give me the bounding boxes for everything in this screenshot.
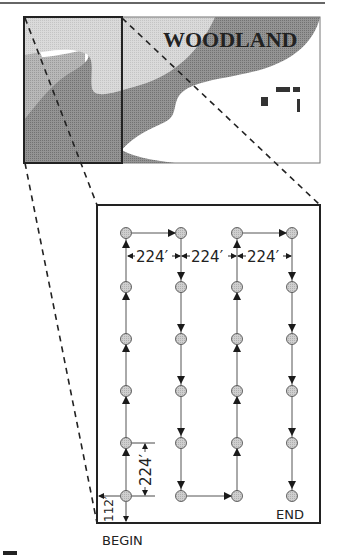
sample-point: [232, 282, 243, 293]
building-icon: [297, 99, 300, 112]
sample-point: [232, 386, 243, 397]
begin-label: BEGIN: [102, 533, 143, 548]
sample-point: [176, 334, 187, 345]
dimension-label-1: 224′: [136, 248, 169, 266]
sample-point: [121, 282, 132, 293]
woodland-sampling-diagram: WOODLAND: [0, 0, 337, 555]
end-label: END: [276, 507, 304, 522]
sample-point: [287, 282, 298, 293]
begin-point: [121, 491, 132, 502]
sample-point: [287, 386, 298, 397]
sample-point: [232, 491, 243, 502]
sample-point: [232, 438, 243, 449]
sample-point: [121, 438, 132, 449]
sample-point: [287, 334, 298, 345]
sample-point: [121, 386, 132, 397]
map-title: WOODLAND: [163, 27, 297, 52]
building-icon: [276, 87, 290, 92]
sample-point: [176, 491, 187, 502]
building-icon: [293, 87, 300, 92]
figure-marker: [3, 551, 17, 555]
sample-point: [232, 334, 243, 345]
sample-point: [176, 386, 187, 397]
sample-point: [176, 438, 187, 449]
end-point: [287, 491, 298, 502]
sample-point: [121, 334, 132, 345]
dimension-label-2: 224′: [191, 248, 224, 266]
edge-offset-label: 112′: [102, 496, 116, 522]
sample-point: [121, 228, 132, 239]
building-icon: [261, 97, 268, 106]
dimension-label-3: 224′: [247, 248, 280, 266]
vertical-dimension-label: 224′: [137, 453, 155, 486]
sample-point: [232, 228, 243, 239]
sample-point: [176, 282, 187, 293]
sample-point: [176, 228, 187, 239]
sample-point: [287, 228, 298, 239]
sample-point: [287, 438, 298, 449]
